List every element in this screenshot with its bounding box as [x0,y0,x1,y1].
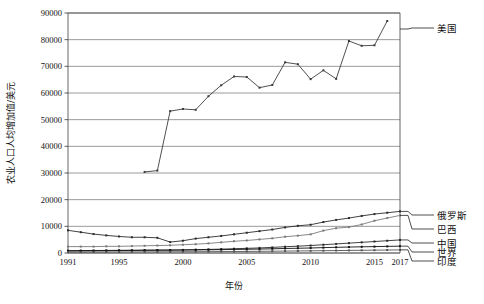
y-axis-title: 农业人口人均增加值/美元 [5,82,16,184]
data-point-marker [207,249,209,251]
data-point-marker [361,215,363,217]
data-point-marker [220,249,222,251]
x-tick-label: 1995 [111,257,128,267]
data-point-marker [373,246,375,248]
data-point-marker [118,251,120,253]
data-point-marker [182,108,184,110]
data-point-marker [93,233,95,235]
data-point-marker [207,251,209,253]
legend-label-俄罗斯[interactable]: 俄罗斯 [437,210,467,221]
data-point-marker [144,251,146,253]
data-point-marker [373,241,375,243]
data-point-marker [361,45,363,47]
data-point-marker [284,250,286,252]
data-point-marker [310,233,312,235]
data-point-marker [386,212,388,214]
data-point-marker [259,250,261,252]
data-point-marker [322,247,324,249]
x-tick-label: 2000 [174,257,191,267]
data-point-marker [348,246,350,248]
data-point-marker [348,249,350,251]
data-point-marker [335,219,337,221]
data-point-marker [271,248,273,250]
data-point-marker [67,229,69,231]
data-point-marker [271,237,273,239]
data-point-marker [118,235,120,237]
data-point-marker [310,247,312,249]
data-point-marker [233,251,235,253]
data-point-marker [233,240,235,242]
data-point-marker [156,251,158,253]
data-point-marker [335,243,337,245]
data-point-marker [284,247,286,249]
data-point-marker [373,249,375,251]
legend-label-美国[interactable]: 美国 [437,23,457,34]
y-axis-tick-labels: 0100002000030000400005000060000700008000… [41,8,62,258]
data-point-marker [246,250,248,252]
data-point-marker [386,20,388,22]
data-point-marker [169,110,171,112]
legend-label-巴西[interactable]: 巴西 [437,224,457,235]
data-point-marker [386,217,388,219]
data-point-marker [220,241,222,243]
data-point-marker [105,234,107,236]
data-point-marker [348,217,350,219]
data-point-marker [195,238,197,240]
y-tick-label: 70000 [41,61,62,71]
x-axis-tick-labels: 1991199520002005201020152017 [60,257,409,267]
data-point-marker [322,221,324,223]
data-point-marker [373,44,375,46]
data-point-marker [233,233,235,235]
data-point-marker [322,69,324,71]
data-point-marker [335,227,337,229]
data-point-marker [310,78,312,80]
data-point-marker [284,236,286,238]
data-point-marker [220,251,222,253]
x-tick-label: 2015 [366,257,383,267]
data-point-marker [144,245,146,247]
data-point-marker [169,241,171,243]
data-point-marker [322,250,324,252]
series-美国 [144,20,389,173]
data-point-marker [271,250,273,252]
data-point-marker [156,245,158,247]
data-point-marker [297,250,299,252]
data-point-marker [80,231,82,233]
x-tick-label: 1991 [60,257,77,267]
data-point-marker [335,78,337,80]
data-point-marker [169,251,171,253]
legend-leader-line [400,240,434,243]
legend-label-印度[interactable]: 印度 [437,256,457,267]
data-point-marker [80,246,82,248]
data-point-marker [259,238,261,240]
data-point-marker [207,236,209,238]
data-point-marker [386,240,388,242]
data-point-marker [361,246,363,248]
data-point-marker [297,247,299,249]
data-point-marker [207,242,209,244]
line-chart: 0100002000030000400005000060000700008000… [0,0,484,304]
data-point-marker [322,244,324,246]
data-point-marker [156,170,158,172]
y-tick-label: 20000 [41,195,62,205]
data-point-marker [297,225,299,227]
y-tick-label: 10000 [41,221,62,231]
data-point-marker [220,235,222,237]
legend-leader-line [400,215,434,229]
data-point-marker [93,251,95,253]
data-point-marker [348,40,350,42]
data-point-marker [80,251,82,253]
data-point-marker [105,251,107,253]
data-point-marker [182,244,184,246]
data-series-group [67,20,401,253]
data-point-marker [144,171,146,173]
data-point-marker [144,249,146,251]
data-point-marker [182,251,184,253]
data-point-marker [207,95,209,97]
y-tick-label: 40000 [41,141,62,151]
legend-leader-line [400,28,434,29]
data-point-marker [259,87,261,89]
data-point-marker [373,213,375,215]
data-point-marker [169,249,171,251]
data-point-marker [233,75,235,77]
